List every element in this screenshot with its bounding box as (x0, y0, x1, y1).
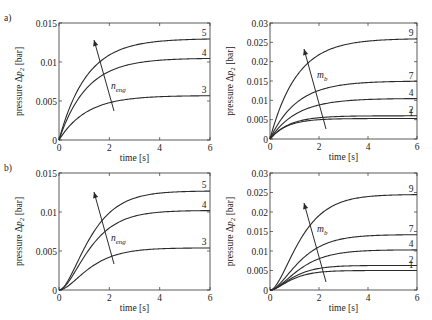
y-tick-label: 0.015 (36, 169, 58, 179)
series-curve-5 (59, 39, 210, 140)
series-curve-4 (59, 58, 210, 140)
y-tick-label: 0.03 (251, 169, 268, 179)
y-axis-label: pressure Δp2 [bar] (225, 197, 237, 266)
arrow-parameter-label: neng (111, 233, 126, 246)
series-curve-7 (270, 81, 417, 139)
series-label: 5 (202, 28, 207, 38)
x-axis-label: time [s] (329, 303, 358, 313)
series-label: 1 (409, 260, 414, 270)
series-label: 3 (202, 237, 207, 247)
series-label: 4 (202, 48, 207, 58)
x-tick-label: 6 (208, 143, 213, 153)
y-axis-label: pressure Δp2 [bar] (14, 197, 26, 266)
series-label: 9 (409, 184, 414, 194)
x-tick-label: 2 (317, 293, 322, 303)
series-label: 7 (409, 71, 414, 81)
y-tick-label: 0.02 (251, 208, 268, 218)
y-tick-label: 0.01 (40, 208, 57, 218)
x-tick-label: 4 (157, 143, 162, 153)
x-tick-label: 0 (268, 293, 273, 303)
x-axis-label: time [s] (120, 153, 149, 163)
y-tick-label: 0 (52, 136, 57, 146)
panel-a-left: 024600.0050.010.015time [s]pressure Δp2 … (4, 13, 213, 163)
y-tick-label: 0.015 (247, 77, 269, 87)
x-tick-label: 0 (57, 143, 62, 153)
x-axis-label: time [s] (120, 303, 149, 313)
series-label: 5 (202, 180, 207, 190)
panel-b-right: 024600.0050.010.0150.020.0250.03time [s]… (225, 169, 420, 314)
panel-row-label: a) (4, 13, 11, 24)
x-tick-label: 4 (366, 142, 371, 152)
plot-frame (59, 173, 210, 290)
figure-four-panels: 024600.0050.010.015time [s]pressure Δp2 … (0, 0, 432, 320)
x-tick-label: 2 (107, 143, 112, 153)
series-label: 4 (409, 88, 414, 98)
series-curve-3 (59, 96, 210, 140)
y-tick-label: 0.01 (251, 247, 268, 257)
trend-arrow (304, 203, 326, 282)
plot-frame (59, 23, 210, 140)
y-tick-label: 0.025 (247, 38, 269, 48)
plot-frame (270, 173, 417, 290)
arrow-parameter-label: neng (111, 81, 126, 94)
y-tick-label: 0.005 (36, 97, 58, 107)
x-tick-label: 0 (57, 293, 62, 303)
y-tick-label: 0.005 (247, 266, 269, 276)
arrow-parameter-label: mb (317, 70, 328, 83)
panel-b-left: 024600.0050.010.015time [s]pressure Δp2 … (4, 163, 213, 313)
arrow-head-icon (93, 40, 98, 46)
series-label: 3 (202, 85, 207, 95)
x-axis-label: time [s] (329, 152, 358, 162)
y-tick-label: 0.005 (247, 115, 269, 125)
x-tick-label: 0 (268, 142, 273, 152)
trend-arrow (94, 40, 114, 111)
series-curve-4 (59, 211, 210, 290)
series-label: 9 (409, 28, 414, 38)
series-curve-1 (270, 271, 417, 291)
y-tick-label: 0.01 (40, 58, 57, 68)
series-label: 4 (409, 239, 414, 249)
panel-a-right: 024600.0050.010.0150.020.0250.03time [s]… (225, 19, 420, 163)
x-tick-label: 6 (415, 142, 420, 152)
x-tick-label: 2 (317, 142, 322, 152)
series-curve-7 (270, 235, 417, 290)
y-tick-label: 0.015 (247, 227, 269, 237)
plot-frame (270, 23, 417, 139)
x-tick-label: 4 (366, 293, 371, 303)
series-label: 7 (409, 224, 414, 234)
panel-row-label: b) (4, 163, 12, 174)
y-axis-label: pressure Δp2 [bar] (14, 47, 26, 116)
y-tick-label: 0.01 (251, 96, 268, 106)
series-label: 1 (409, 108, 414, 118)
y-axis-label: pressure Δp2 [bar] (225, 46, 237, 115)
y-tick-label: 0.025 (247, 188, 269, 198)
series-label: 4 (202, 200, 207, 210)
y-tick-label: 0.02 (251, 57, 268, 67)
y-tick-label: 0 (52, 286, 57, 296)
x-tick-label: 4 (157, 293, 162, 303)
y-tick-label: 0.03 (251, 19, 268, 29)
arrow-parameter-label: mb (317, 224, 328, 237)
x-tick-label: 6 (208, 293, 213, 303)
y-tick-label: 0.005 (36, 247, 58, 257)
y-tick-label: 0.015 (36, 19, 58, 29)
y-tick-label: 0 (263, 135, 268, 145)
series-curve-1 (270, 119, 417, 139)
y-tick-label: 0 (263, 286, 268, 296)
x-tick-label: 2 (107, 293, 112, 303)
x-tick-label: 6 (415, 293, 420, 303)
